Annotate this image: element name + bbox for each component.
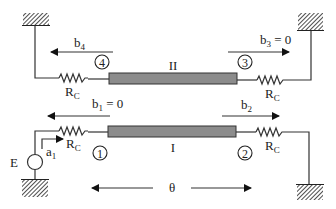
ground-top-right-icon <box>297 13 324 31</box>
svg-text:1: 1 <box>97 147 103 161</box>
resistor-bottom-right-label: RC <box>265 138 280 155</box>
resistor-bottom-left-label: RC <box>66 136 81 153</box>
ground-top-left-icon <box>22 13 50 26</box>
coupled-line-diagram: II b4 b3 = 0 4 3 RC RC b1 = 0 b2 I E a1 <box>0 0 336 209</box>
port-4: 4 <box>95 55 109 70</box>
wire-bottom-right <box>285 132 309 184</box>
svg-text:4: 4 <box>99 56 105 70</box>
svg-text:3: 3 <box>242 56 248 70</box>
port-3: 3 <box>238 55 252 70</box>
b2-label: b2 <box>241 97 252 114</box>
b3-label: b3 = 0 <box>260 32 291 49</box>
line-I-label: I <box>171 140 175 155</box>
b1-label: b1 = 0 <box>92 96 123 113</box>
resistor-bottom-right-icon <box>256 128 285 136</box>
resistor-top-right-label: RC <box>265 86 280 103</box>
transmission-line-II <box>109 73 237 84</box>
resistor-bottom-left-icon <box>59 127 88 135</box>
port-1: 1 <box>93 146 107 161</box>
ground-bottom-right-icon <box>296 185 324 201</box>
resistor-top-right-icon <box>257 76 286 84</box>
a1-label: a1 <box>46 144 56 161</box>
port-2: 2 <box>238 146 252 161</box>
resistor-top-left-label: RC <box>65 84 80 101</box>
svg-text:2: 2 <box>242 147 248 161</box>
transmission-line-I <box>108 126 236 137</box>
source-label: E <box>10 155 18 170</box>
resistor-top-left-icon <box>59 74 88 82</box>
ground-bottom-left-icon <box>21 180 49 198</box>
theta-label: θ <box>169 180 175 195</box>
b4-label: b4 <box>74 35 86 52</box>
voltage-source-icon <box>28 155 43 180</box>
line-II-label: II <box>169 58 178 73</box>
